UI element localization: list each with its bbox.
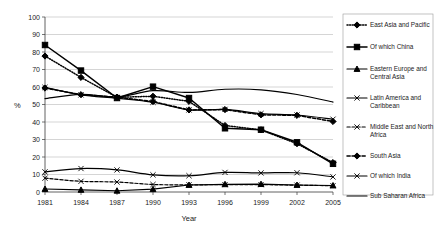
y-tick-label: 60: [32, 84, 40, 91]
series-eastern-europe-and-central-asia: [42, 181, 336, 193]
legend: East Asia and PacificOf which ChinaEaste…: [343, 14, 434, 199]
data-point-marker: [150, 84, 155, 89]
x-tick-label: 1987: [109, 199, 125, 206]
x-tick-label: 1990: [145, 199, 161, 206]
poverty-headcount-line-chart: 0102030405060708090100198119841987199019…: [0, 0, 438, 235]
x-axis-title: Year: [181, 214, 197, 223]
series-group: [42, 42, 336, 193]
y-tick-label: 50: [32, 101, 40, 108]
data-point-marker: [330, 161, 335, 166]
data-point-marker: [354, 153, 360, 159]
data-point-marker: [258, 112, 264, 118]
legend-item-south-asia[interactable]: South Asia: [347, 152, 401, 159]
x-tick-label: 1984: [73, 199, 89, 206]
data-point-marker: [354, 22, 360, 28]
legend-item-label: Eastern Europe andCentral Asia: [370, 65, 427, 80]
data-point-marker: [294, 140, 299, 145]
legend-item-label: Of which India: [370, 172, 411, 179]
data-point-marker: [222, 126, 227, 131]
legend-item-label: South Asia: [370, 152, 401, 159]
legend-item-label: East Asia and Pacific: [370, 21, 430, 28]
y-tick-label: 20: [32, 154, 40, 161]
y-tick-label: 30: [32, 136, 40, 143]
y-tick-label: 0: [36, 189, 40, 196]
x-tick-label: 2002: [289, 199, 305, 206]
legend-item-label: Latin America andCaribbean: [370, 94, 422, 109]
series-latin-america-and-caribbean: [42, 166, 335, 180]
y-tick-label: 80: [32, 49, 40, 56]
legend-item-label: Of which China: [370, 43, 414, 50]
legend-item-label: Sub Saharan Africa: [370, 192, 426, 199]
legend-item-label: Middle East and NorthAfrica: [370, 123, 434, 138]
data-point-marker: [78, 74, 84, 80]
x-tick-label: 1993: [181, 199, 197, 206]
legend-item-eastern-europe-and-central-asia[interactable]: Eastern Europe andCentral Asia: [347, 65, 427, 80]
data-point-marker: [42, 53, 48, 59]
y-tick-label: 10: [32, 171, 40, 178]
x-tick-label: 1999: [253, 199, 269, 206]
data-point-marker: [354, 44, 359, 49]
legend-item-east-asia-and-pacific[interactable]: East Asia and Pacific: [347, 21, 430, 28]
legend-item-sub-saharan-africa[interactable]: Sub Saharan Africa: [347, 192, 426, 199]
y-tick-label: 40: [32, 119, 40, 126]
y-axis-title: %: [14, 101, 21, 110]
legend-item-of-which-china[interactable]: Of which China: [347, 43, 414, 50]
data-point-marker: [258, 127, 263, 132]
y-tick-label: 100: [28, 14, 40, 21]
y-gridlines: 0102030405060708090100: [28, 14, 333, 196]
data-point-marker: [42, 42, 47, 47]
legend-item-middle-east-and-north-africa[interactable]: Middle East and NorthAfrica: [347, 123, 434, 138]
legend-item-latin-america-and-caribbean[interactable]: Latin America andCaribbean: [347, 94, 422, 109]
y-tick-label: 90: [32, 31, 40, 38]
y-tick-label: 70: [32, 66, 40, 73]
data-point-marker: [186, 95, 191, 100]
legend-item-of-which-india[interactable]: Of which India: [347, 172, 411, 179]
x-axis-labels: 198119841987199019931996199920022005: [37, 192, 341, 206]
x-tick-label: 2005: [325, 199, 341, 206]
x-tick-label: 1981: [37, 199, 53, 206]
data-point-marker: [78, 68, 83, 73]
chart-canvas: 0102030405060708090100198119841987199019…: [0, 0, 438, 235]
x-tick-label: 1996: [217, 199, 233, 206]
